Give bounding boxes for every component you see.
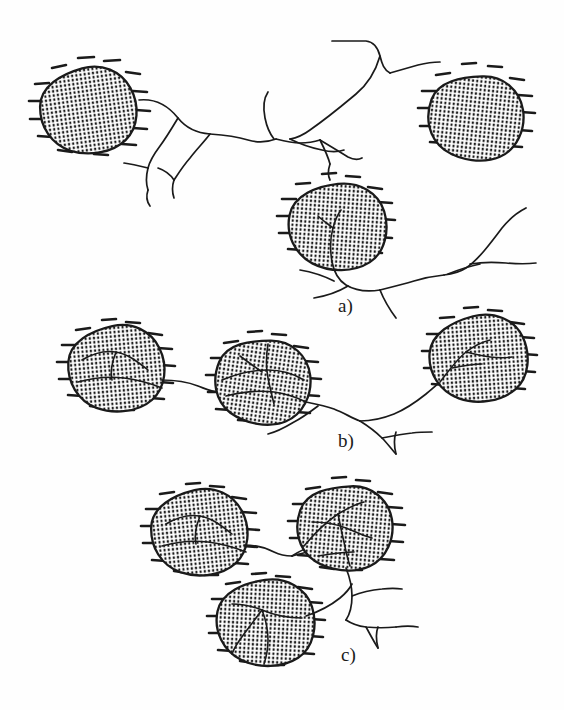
panel-label-c: c) bbox=[341, 644, 356, 666]
panel-label-a: a) bbox=[338, 295, 353, 317]
figure-canvas: a) b) c) bbox=[0, 0, 564, 710]
neuron-aggregation-diagram: a) b) c) bbox=[0, 0, 564, 710]
panel-label-b: b) bbox=[338, 430, 354, 452]
